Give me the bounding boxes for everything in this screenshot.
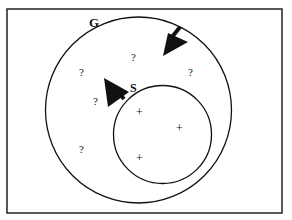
inner-set-s-circle: [114, 86, 212, 184]
inner-set-label: S: [130, 81, 137, 95]
g-inward-arrow-icon: [163, 27, 188, 56]
unknown-mark: ?: [93, 95, 98, 107]
unknown-mark: ?: [79, 143, 84, 155]
frame-border: [7, 9, 282, 213]
unknown-mark: ?: [79, 66, 84, 78]
outer-set-label: G: [89, 15, 99, 30]
positive-mark: +: [176, 121, 183, 135]
positive-mark: +: [136, 105, 143, 119]
unknown-mark: ?: [188, 66, 193, 78]
positive-mark: +: [136, 151, 143, 165]
unknown-mark: ?: [131, 51, 136, 63]
version-space-diagram: G S ? ? ? ? ? + + +: [0, 0, 292, 220]
